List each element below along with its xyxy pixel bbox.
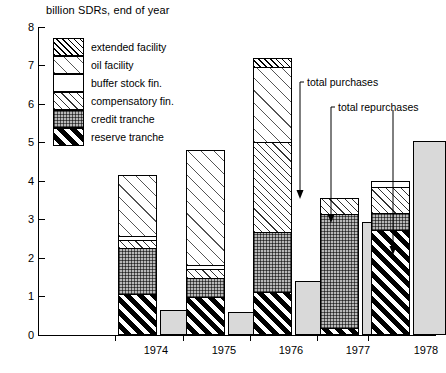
x-tick-label-1977: 1977 — [328, 344, 388, 356]
segment-oil-facility-1974 — [118, 175, 157, 237]
x-tick-label-1978: 1978 — [396, 344, 446, 356]
segment-reserve-tranche-1978 — [371, 230, 410, 335]
segment-reserve-tranche-1977 — [320, 328, 359, 335]
x-tick-1 — [183, 336, 184, 341]
legend-swatch-oil-facility-icon — [53, 56, 84, 74]
segment-oil-facility-1975 — [186, 150, 225, 266]
segment-oil-facility-1976 — [253, 67, 292, 143]
bar-group-1978-purchases — [371, 181, 410, 335]
legend-label-reserve-tranche: reserve tranche — [91, 131, 164, 143]
y-tick-5 — [38, 142, 45, 143]
annotation-leader-purchases — [300, 82, 304, 192]
y-tick-6 — [38, 104, 45, 105]
x-axis-line — [38, 335, 436, 336]
annotation-label-total-repurchases: total repurchases — [338, 101, 419, 113]
x-tick-0 — [115, 336, 116, 341]
y-tick-label-4: 4 — [12, 176, 34, 187]
segment-reserve-tranche-1974 — [118, 294, 157, 335]
legend-label-compensatory-fin: compensatory fin. — [91, 95, 174, 107]
annotation-arrowhead-purchases — [297, 190, 304, 199]
bar-group-1976-purchases — [253, 58, 292, 335]
segment-reserve-tranche-1975 — [186, 297, 225, 335]
segment-compensatory-fin-1977 — [320, 198, 359, 215]
legend-label-buffer-stock-fin: buffer stock fin. — [91, 77, 162, 89]
bar-group-1974-purchases — [118, 175, 157, 335]
y-tick-label-1: 1 — [12, 291, 34, 302]
segment-credit-tranche-1978 — [371, 213, 410, 231]
y-tick-7 — [38, 65, 45, 66]
y-tick-label-3: 3 — [12, 214, 34, 225]
segment-credit-tranche-1974 — [118, 248, 157, 295]
annotation-label-total-purchases: total purchases — [307, 76, 378, 88]
segment-credit-tranche-1977 — [320, 214, 359, 329]
y-tick-1 — [38, 296, 45, 297]
x-tick-4 — [368, 336, 369, 341]
y-tick-label-2: 2 — [12, 253, 34, 264]
y-tick-label-0: 0 — [12, 330, 34, 341]
segment-compensatory-fin-1978 — [371, 187, 410, 214]
y-tick-4 — [38, 181, 45, 182]
y-tick-3 — [38, 219, 45, 220]
y-tick-label-8: 8 — [12, 22, 34, 33]
bar-1978-repurchases — [413, 141, 446, 335]
legend-label-extended-facility: extended facility — [91, 41, 166, 53]
x-tick-label-1974: 1974 — [126, 344, 186, 356]
legend-label-credit-tranche: credit tranche — [91, 113, 155, 125]
legend-swatch-compensatory-fin-icon — [53, 92, 84, 110]
y-tick-2 — [38, 258, 45, 259]
y-tick-label-6: 6 — [12, 99, 34, 110]
y-tick-8 — [38, 27, 45, 28]
y-tick-label-7: 7 — [12, 60, 34, 71]
legend-swatch-credit-tranche-icon — [53, 110, 84, 128]
x-tick-2 — [250, 336, 251, 341]
legend-swatch-reserve-tranche-icon — [53, 128, 84, 146]
x-tick-label-1975: 1975 — [194, 344, 254, 356]
segment-credit-tranche-1975 — [186, 278, 225, 298]
bar-group-1975-purchases — [186, 150, 225, 335]
segment-compensatory-fin-1976 — [253, 142, 292, 233]
bar-chart: billion SDRs, end of year 8 7 6 5 4 3 2 … — [0, 0, 446, 373]
x-tick-3 — [317, 336, 318, 341]
segment-credit-tranche-1976 — [253, 232, 292, 293]
legend-label-oil-facility: oil facility — [91, 59, 134, 71]
y-tick-label-5: 5 — [12, 137, 34, 148]
x-tick-label-1976: 1976 — [261, 344, 321, 356]
bar-group-1977-purchases — [320, 198, 359, 335]
legend-swatch-extended-facility-icon — [53, 38, 84, 56]
chart-axis-title: billion SDRs, end of year — [46, 4, 170, 16]
legend-swatch-buffer-stock-fin-icon — [53, 74, 84, 92]
segment-reserve-tranche-1976 — [253, 292, 292, 335]
